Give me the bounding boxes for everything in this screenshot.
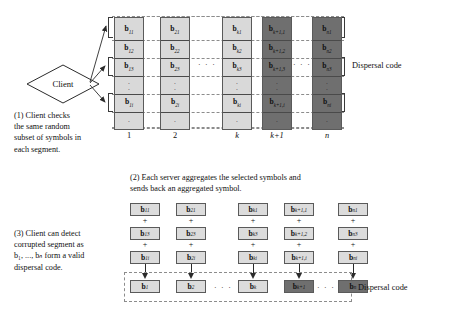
dispersal-code-label-bottom: Dispersal code [358, 283, 408, 292]
dispersal-symbol: b1 [130, 280, 160, 293]
dispersal-symbol-corrupted: bk+1 [284, 280, 314, 293]
result-ellipsis-k: · · · [208, 283, 238, 292]
aggregate-arrowheads [0, 0, 452, 311]
dispersal-symbol: b2 [176, 280, 206, 293]
result-ellipsis-n: · · · [314, 283, 338, 292]
figure-canvas: b11 b12 b13 · · b1i · b21 b22 b23 · · b2… [0, 0, 452, 311]
dispersal-symbol: bk [238, 280, 268, 293]
